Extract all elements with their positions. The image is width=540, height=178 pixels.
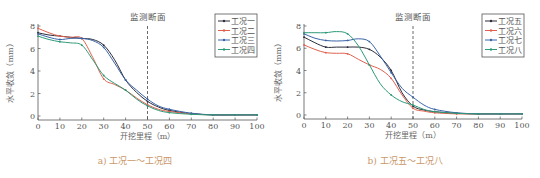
x-tick-label: 100: [514, 121, 529, 130]
x-axis-label: 开挖里程（m）: [385, 130, 441, 140]
y-axis-label: 水平收敛（mm）: [5, 39, 15, 102]
x-tick-label: 40: [121, 122, 131, 131]
y-tick-label: 0: [30, 112, 35, 121]
y-axis-label: 水平收敛（mm）: [273, 39, 283, 102]
x-tick-label: 50: [142, 122, 152, 131]
legend-label: 工况八: [498, 46, 522, 55]
legend-label: 工况七: [498, 36, 522, 45]
x-tick-label: 60: [164, 122, 174, 131]
x-tick-label: 90: [495, 121, 505, 130]
legend: 工况一工况二工况三工况四: [215, 14, 257, 57]
chart-caption-a: a) 工况一～工况四: [0, 154, 270, 167]
y-tick-label: 6: [296, 44, 301, 53]
y-tick-label: 4: [296, 67, 301, 76]
x-tick-label: 70: [452, 121, 462, 130]
x-tick-label: 30: [99, 122, 109, 131]
chart-caption-b: b) 工况五～工况八: [270, 154, 540, 167]
legend-label: 工况五: [498, 17, 522, 26]
y-tick-label: 4: [30, 67, 35, 76]
y-tick-label: 8: [296, 22, 301, 31]
x-tick-label: 40: [386, 121, 396, 130]
y-tick-label: 0: [296, 111, 301, 120]
x-tick-label: 100: [249, 122, 264, 131]
x-tick-label: 30: [364, 121, 374, 130]
x-tick-label: 50: [408, 121, 418, 130]
monitoring-section-label: 监测断面: [395, 12, 431, 22]
x-tick-label: 0: [35, 122, 40, 131]
legend: 工况五工况六工况七工况八: [482, 14, 524, 57]
x-tick-label: 70: [186, 122, 196, 131]
legend-label: 工况六: [498, 26, 522, 36]
line-chart-b: 010203040506070809010002468开挖里程（m）水平收敛（m…: [270, 0, 540, 178]
chart-panel-b: 010203040506070809010002468开挖里程（m）水平收敛（m…: [270, 0, 540, 178]
x-tick-label: 80: [208, 122, 218, 131]
x-tick-label: 10: [55, 122, 65, 131]
x-tick-label: 20: [77, 122, 87, 131]
legend-label: 工况四: [231, 46, 255, 55]
line-chart-a: 010203040506070809010002468开挖里程（m）水平收敛（m…: [0, 0, 270, 178]
x-tick-label: 80: [473, 121, 483, 130]
y-tick-label: 2: [296, 89, 301, 98]
y-tick-label: 8: [30, 22, 35, 31]
x-tick-label: 20: [343, 121, 353, 130]
legend-label: 工况三: [231, 36, 255, 45]
x-tick-label: 90: [230, 122, 240, 131]
chart-panel-a: 010203040506070809010002468开挖里程（m）水平收敛（m…: [0, 0, 270, 178]
legend-label: 工况二: [231, 27, 255, 36]
x-axis-label: 开挖里程（m）: [120, 131, 176, 141]
x-tick-label: 60: [430, 121, 440, 130]
x-tick-label: 10: [321, 121, 331, 130]
legend-label: 工况一: [231, 17, 255, 26]
monitoring-section-label: 监测断面: [130, 12, 166, 22]
y-tick-label: 2: [30, 90, 35, 99]
x-tick-label: 0: [301, 121, 306, 130]
y-tick-label: 6: [30, 45, 35, 54]
